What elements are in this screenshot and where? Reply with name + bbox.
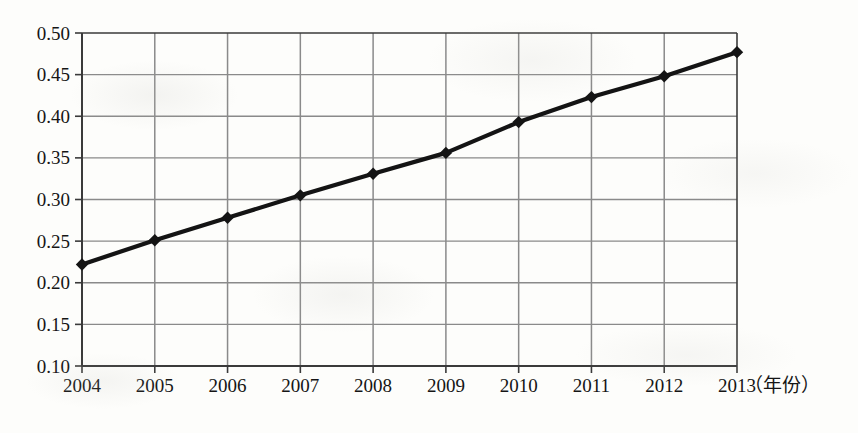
x-axis-unit-label: （年份） — [744, 375, 820, 396]
data-point-marker — [512, 116, 524, 128]
y-tick-label: 0.15 — [37, 314, 70, 335]
x-tick-label: 2012 — [645, 375, 683, 396]
x-tick-label: 2005 — [136, 375, 174, 396]
y-tick-label: 0.25 — [37, 231, 70, 252]
y-tick-label: 0.40 — [37, 106, 70, 127]
x-tick-label: 2006 — [209, 375, 247, 396]
y-tick-label: 0.10 — [37, 356, 70, 377]
y-tick-label: 0.45 — [37, 64, 70, 85]
horizontal-gridlines — [82, 75, 737, 325]
x-tick-label: 2004 — [63, 375, 102, 396]
data-point-marker — [149, 234, 161, 246]
data-point-marker — [76, 258, 88, 270]
x-tick-label: 2009 — [427, 375, 465, 396]
data-point-marker — [658, 70, 670, 82]
data-point-marker — [440, 147, 452, 159]
data-point-marker — [221, 212, 233, 224]
x-tick-label: 2008 — [354, 375, 392, 396]
y-tick-label: 0.20 — [37, 272, 70, 293]
x-tick-label: 2010 — [500, 375, 538, 396]
y-tick-label: 0.35 — [37, 147, 70, 168]
data-point-marker — [367, 167, 379, 179]
y-tick-label: 0.50 — [37, 23, 70, 44]
x-tick-label: 2007 — [281, 375, 319, 396]
chart-canvas: 0.500.450.400.350.300.250.200.150.10 200… — [0, 0, 858, 433]
y-tick-label: 0.30 — [37, 189, 70, 210]
x-tick-label: 2011 — [573, 375, 610, 396]
y-axis-tick-labels: 0.500.450.400.350.300.250.200.150.10 — [37, 23, 70, 377]
data-point-marker — [585, 91, 597, 103]
x-axis-tick-labels: 2004200520062007200820092010201120122013 — [63, 375, 756, 396]
line-chart: 0.500.450.400.350.300.250.200.150.10 200… — [0, 0, 858, 433]
data-point-marker — [731, 46, 743, 58]
